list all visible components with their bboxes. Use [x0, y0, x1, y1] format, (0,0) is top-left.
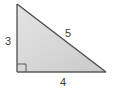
triangle-svg — [0, 0, 115, 92]
side-label-base: 4 — [60, 77, 66, 88]
side-label-vertical-leg: 3 — [5, 36, 11, 47]
side-label-hypotenuse: 5 — [65, 28, 71, 39]
triangle-figure: 3 5 4 — [0, 0, 115, 92]
